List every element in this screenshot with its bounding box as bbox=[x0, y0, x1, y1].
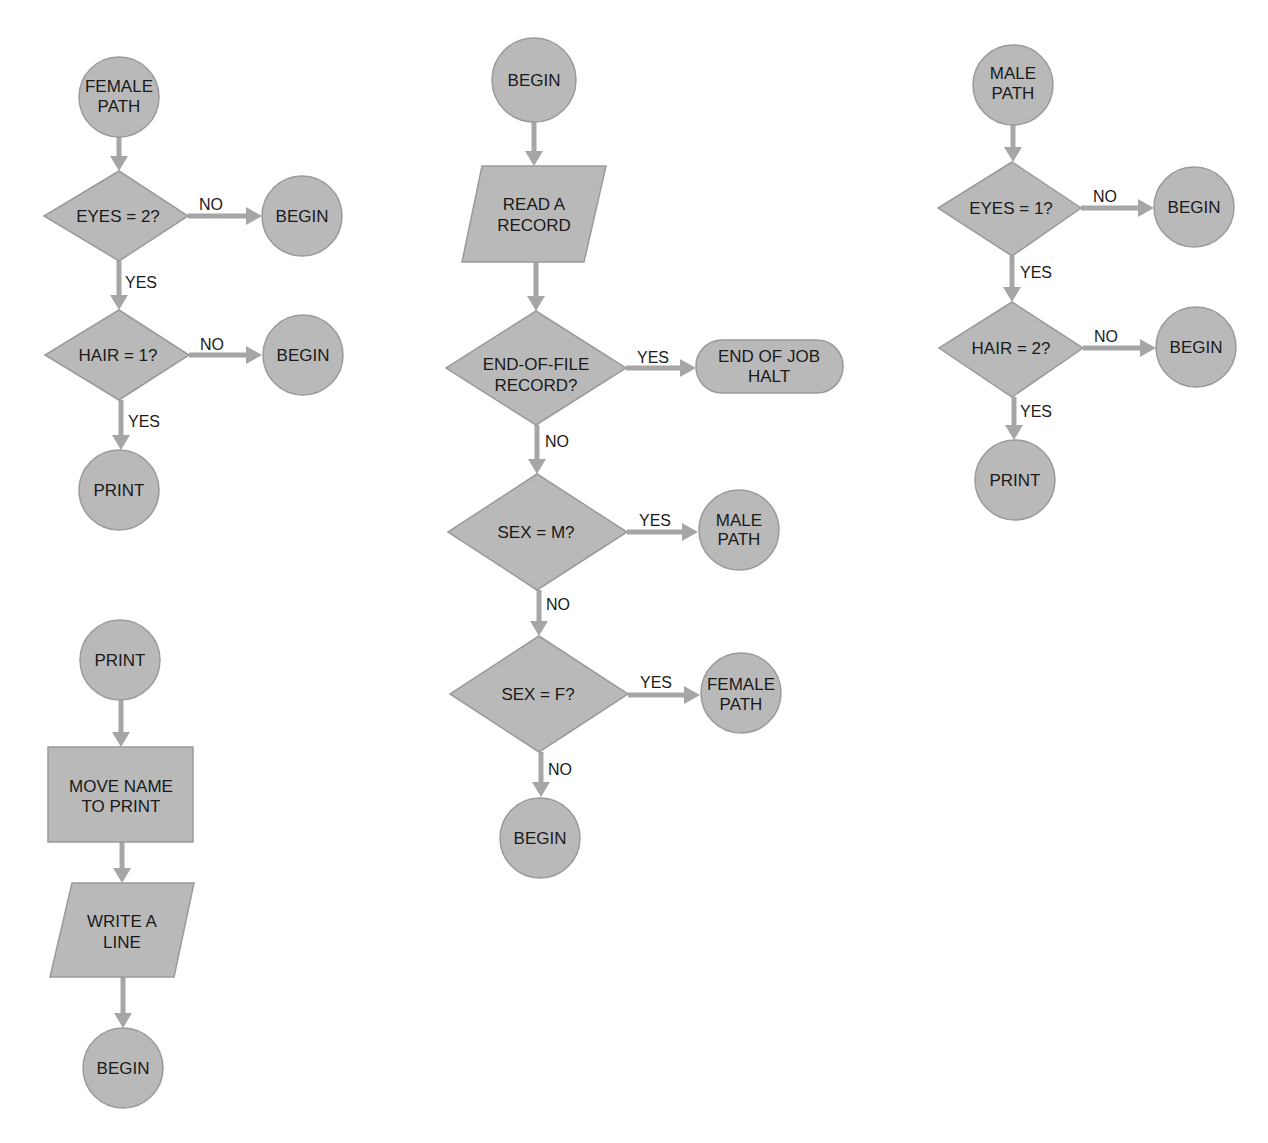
node-label: HALT bbox=[748, 367, 790, 386]
eyes-equals-1-decision[interactable]: EYES = 1? bbox=[938, 162, 1081, 256]
node-label: END OF JOB bbox=[718, 347, 820, 366]
node-label: MOVE NAME bbox=[69, 777, 173, 796]
begin-connector[interactable]: BEGIN bbox=[1156, 307, 1236, 387]
begin-connector[interactable]: BEGIN bbox=[83, 1028, 163, 1108]
node-label: END-OF-FILE bbox=[483, 355, 590, 374]
male-path-connector[interactable]: MALE PATH bbox=[699, 490, 779, 570]
node-label: FEMALE bbox=[85, 77, 153, 96]
node-label: BEGIN bbox=[1168, 198, 1221, 217]
node-label: HAIR = 2? bbox=[972, 339, 1051, 358]
begin-connector[interactable]: BEGIN bbox=[500, 798, 580, 878]
node-label: TO PRINT bbox=[81, 797, 160, 816]
arrows bbox=[110, 122, 1156, 1028]
edge-label-yes: YES bbox=[639, 512, 671, 529]
edge-label-no: NO bbox=[200, 336, 224, 353]
print-connector[interactable]: PRINT bbox=[80, 620, 160, 700]
sex-equals-m-decision[interactable]: SEX = M? bbox=[448, 474, 627, 590]
node-label: PRINT bbox=[95, 651, 146, 670]
begin-connector[interactable]: BEGIN bbox=[1154, 167, 1234, 247]
edge-label-yes: YES bbox=[125, 274, 157, 291]
node-label: LINE bbox=[103, 933, 141, 952]
node-label: SEX = M? bbox=[497, 523, 574, 542]
node-label: RECORD? bbox=[494, 376, 577, 395]
begin-connector[interactable]: BEGIN bbox=[262, 176, 342, 256]
eyes-equals-2-decision[interactable]: EYES = 2? bbox=[44, 171, 188, 261]
node-label: RECORD bbox=[497, 216, 571, 235]
node-label: BEGIN bbox=[277, 346, 330, 365]
female-path-connector[interactable]: FEMALE PATH bbox=[701, 653, 781, 733]
flowchart-canvas: FEMALE PATH EYES = 2? NO BEGIN YES HAIR … bbox=[0, 0, 1268, 1143]
edge-label-yes: YES bbox=[128, 413, 160, 430]
read-record-io[interactable]: READ A RECORD bbox=[462, 166, 606, 262]
edge-label-yes: YES bbox=[1020, 403, 1052, 420]
node-label: MALE bbox=[990, 64, 1036, 83]
edge-label-yes: YES bbox=[640, 674, 672, 691]
node-label: EYES = 2? bbox=[76, 207, 160, 226]
edge-label-no: NO bbox=[1093, 188, 1117, 205]
node-label: EYES = 1? bbox=[969, 199, 1053, 218]
end-of-job-terminal[interactable]: END OF JOB HALT bbox=[696, 340, 843, 393]
hair-equals-2-decision[interactable]: HAIR = 2? bbox=[939, 302, 1083, 397]
node-label: PRINT bbox=[94, 481, 145, 500]
print-connector[interactable]: PRINT bbox=[79, 450, 159, 530]
node-label: BEGIN bbox=[97, 1059, 150, 1078]
node-label: MALE bbox=[716, 511, 762, 530]
node-label: PRINT bbox=[990, 471, 1041, 490]
sex-equals-f-decision[interactable]: SEX = F? bbox=[450, 636, 628, 752]
male-path-connector[interactable]: MALE PATH bbox=[973, 45, 1053, 125]
print-connector[interactable]: PRINT bbox=[975, 440, 1055, 520]
node-label: HAIR = 1? bbox=[79, 346, 158, 365]
node-label: BEGIN bbox=[514, 829, 567, 848]
end-of-file-decision[interactable]: END-OF-FILE RECORD? bbox=[446, 311, 626, 425]
edge-label-no: NO bbox=[545, 433, 569, 450]
node-label: BEGIN bbox=[276, 207, 329, 226]
edge-label-no: NO bbox=[199, 196, 223, 213]
node-label: PATH bbox=[718, 530, 761, 549]
female-path-connector[interactable]: FEMALE PATH bbox=[79, 57, 159, 137]
node-label: PATH bbox=[992, 84, 1035, 103]
edge-label-no: NO bbox=[546, 596, 570, 613]
edge-label-yes: YES bbox=[1020, 264, 1052, 281]
node-label: BEGIN bbox=[508, 71, 561, 90]
node-label: PATH bbox=[720, 695, 763, 714]
move-name-process[interactable]: MOVE NAME TO PRINT bbox=[48, 747, 193, 842]
write-line-io[interactable]: WRITE A LINE bbox=[50, 883, 194, 977]
hair-equals-1-decision[interactable]: HAIR = 1? bbox=[45, 310, 189, 400]
node-label: FEMALE bbox=[707, 675, 775, 694]
edge-label-no: NO bbox=[1094, 328, 1118, 345]
node-label: PATH bbox=[98, 97, 141, 116]
node-label: READ A bbox=[503, 195, 566, 214]
begin-connector[interactable]: BEGIN bbox=[263, 315, 343, 395]
node-label: SEX = F? bbox=[501, 685, 574, 704]
node-label: WRITE A bbox=[87, 912, 158, 931]
begin-connector[interactable]: BEGIN bbox=[492, 38, 576, 122]
edge-label-no: NO bbox=[548, 761, 572, 778]
node-label: BEGIN bbox=[1170, 338, 1223, 357]
edge-label-yes: YES bbox=[637, 349, 669, 366]
